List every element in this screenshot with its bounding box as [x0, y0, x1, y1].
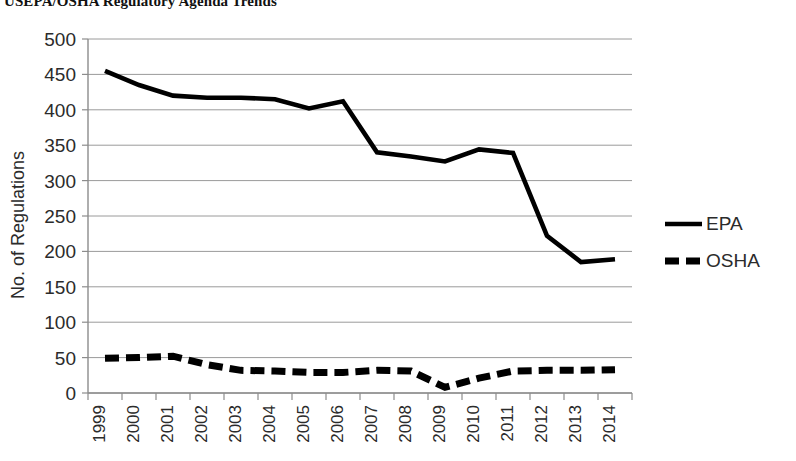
y-tick-label: 100 — [44, 312, 76, 333]
x-tick-label: 2010 — [464, 405, 483, 443]
x-tick-label: 2014 — [600, 405, 619, 443]
legend-label-epa: EPA — [706, 213, 743, 234]
x-tick-label: 1999 — [90, 405, 109, 443]
x-tick-label: 2013 — [566, 405, 585, 443]
x-axis-tick-marks — [88, 393, 632, 400]
y-tick-label: 350 — [44, 135, 76, 156]
y-tick-label: 0 — [65, 383, 76, 404]
x-tick-label: 2006 — [328, 405, 347, 443]
chart-title: USEPA/OSHA Regulatory Agenda Trends — [4, 0, 277, 10]
y-tick-label: 300 — [44, 171, 76, 192]
y-tick-label: 150 — [44, 277, 76, 298]
y-tick-label: 500 — [44, 29, 76, 50]
y-tick-label: 250 — [44, 206, 76, 227]
chart-legend: EPA OSHA — [665, 213, 760, 271]
legend-label-osha: OSHA — [706, 250, 760, 271]
x-tick-label: 2012 — [532, 405, 551, 443]
series-line-epa — [105, 71, 615, 262]
y-tick-label: 50 — [55, 348, 76, 369]
chart-container: USEPA/OSHA Regulatory Agenda Trends 0501… — [0, 0, 796, 461]
x-tick-label: 2008 — [396, 405, 415, 443]
x-tick-label: 2004 — [260, 405, 279, 443]
x-tick-label: 2007 — [362, 405, 381, 443]
line-chart: 050100150200250300350400450500 199920002… — [0, 0, 796, 461]
x-tick-label: 2005 — [294, 405, 313, 443]
y-axis-title: No. of Regulations — [8, 151, 28, 299]
x-tick-label: 2011 — [498, 405, 517, 442]
y-tick-label: 200 — [44, 241, 76, 262]
x-tick-label: 2003 — [226, 405, 245, 443]
y-tick-label: 400 — [44, 100, 76, 121]
x-tick-label: 2001 — [158, 405, 177, 443]
x-tick-label: 2009 — [430, 405, 449, 443]
x-tick-label: 2002 — [192, 405, 211, 443]
series-line-osha — [105, 356, 615, 387]
y-tick-label: 450 — [44, 64, 76, 85]
x-axis-tick-labels: 1999200020012002200320042005200620072008… — [90, 405, 619, 443]
y-axis-tick-labels: 050100150200250300350400450500 — [44, 29, 76, 404]
x-tick-label: 2000 — [124, 405, 143, 443]
